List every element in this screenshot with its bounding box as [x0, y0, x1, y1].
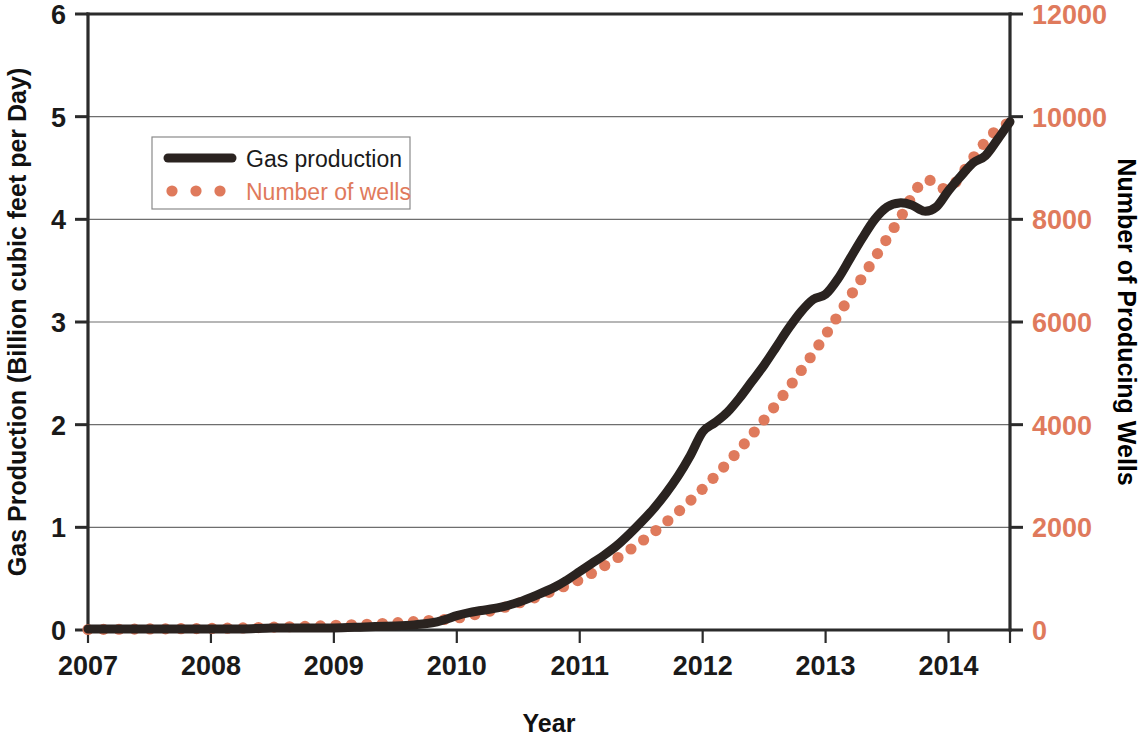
number-of-wells-dot	[796, 365, 807, 376]
x-axis-tick-label: 2008	[181, 651, 241, 681]
number-of-wells-dot	[662, 515, 673, 526]
number-of-wells-dot	[805, 352, 816, 363]
left-axis-tick-label: 0	[51, 616, 66, 646]
right-axis-tick-label: 4000	[1032, 411, 1092, 441]
right-axis-ticks	[1010, 14, 1023, 630]
x-axis-title: Year	[523, 709, 576, 737]
right-axis-tick-label: 2000	[1032, 513, 1092, 543]
x-axis-tick-label: 2011	[550, 651, 609, 681]
number-of-wells-dot	[739, 438, 750, 449]
number-of-wells-dot	[777, 390, 788, 401]
chart-container: 0123456 020004000600080001000012000 2007…	[0, 0, 1143, 746]
y-axis-title: Gas Production (Billion cubic feet per D…	[3, 68, 31, 576]
x-axis-tick-label: 2012	[673, 651, 733, 681]
number-of-wells-dot	[830, 313, 841, 324]
right-axis-tick-label: 0	[1032, 616, 1047, 646]
number-of-wells-dot	[625, 543, 636, 554]
number-of-wells-dot	[924, 175, 935, 186]
legend-dot	[166, 185, 177, 196]
right-axis-tick-label: 8000	[1032, 205, 1092, 235]
number-of-wells-dot	[813, 339, 824, 350]
left-axis-tick-labels: 0123456	[51, 0, 66, 646]
number-of-wells-dot	[897, 209, 908, 220]
left-axis-tick-label: 5	[51, 103, 66, 133]
left-axis-tick-label: 4	[51, 205, 66, 235]
x-axis-tick-label: 2013	[796, 651, 856, 681]
number-of-wells-dot	[912, 182, 923, 193]
number-of-wells-dot	[638, 534, 649, 545]
x-axis-title-text: Year	[523, 709, 576, 737]
number-of-wells-dot	[718, 461, 729, 472]
x-axis-tick-label: 2009	[304, 651, 364, 681]
legend-marker-number-of-wells	[166, 185, 225, 196]
number-of-wells-dot	[839, 300, 850, 311]
number-of-wells-dot	[674, 505, 685, 516]
legend-label-gas-production: Gas production	[246, 146, 402, 172]
y2-axis-title: Number of Producing Wells	[1113, 158, 1141, 485]
number-of-wells-dot	[728, 450, 739, 461]
x-axis-tick-label: 2010	[427, 651, 487, 681]
number-of-wells-dot	[847, 287, 858, 298]
left-axis-tick-label: 1	[51, 513, 66, 543]
y2-axis-title-text: Number of Producing Wells	[1113, 158, 1141, 485]
number-of-wells-dot	[880, 235, 891, 246]
x-axis-tick-labels: 20072008200920102011201220132014	[58, 651, 979, 681]
number-of-wells-dot	[822, 326, 833, 337]
right-axis-tick-label: 10000	[1032, 103, 1107, 133]
x-axis-tick-label: 2014	[918, 651, 978, 681]
number-of-wells-dot	[749, 426, 760, 437]
number-of-wells-dot	[685, 495, 696, 506]
x-axis-tick-label: 2007	[58, 651, 118, 681]
legend-label-number-of-wells: Number of wells	[246, 179, 411, 205]
left-axis-tick-label: 6	[51, 0, 66, 30]
number-of-wells-dot	[612, 552, 623, 563]
right-axis-tick-labels: 020004000600080001000012000	[1032, 0, 1107, 646]
right-axis-tick-label: 6000	[1032, 308, 1092, 338]
number-of-wells-dot	[768, 402, 779, 413]
legend-dot	[190, 185, 201, 196]
number-of-wells-dot	[889, 222, 900, 233]
number-of-wells-dot	[697, 484, 708, 495]
number-of-wells-dot	[855, 274, 866, 285]
right-axis-tick-label: 12000	[1032, 0, 1107, 30]
left-axis-tick-label: 3	[51, 308, 66, 338]
y-axis-title-text: Gas Production (Billion cubic feet per D…	[3, 68, 31, 576]
left-axis-tick-label: 2	[51, 411, 66, 441]
number-of-wells-dot	[707, 473, 718, 484]
chart-svg: 0123456 020004000600080001000012000 2007…	[0, 0, 1143, 746]
number-of-wells-dot	[758, 414, 769, 425]
legend-dot	[214, 185, 225, 196]
number-of-wells-dot	[650, 525, 661, 536]
chart-legend: Gas production Number of wells	[152, 137, 411, 209]
number-of-wells-dot	[864, 261, 875, 272]
left-axis-ticks	[75, 14, 88, 630]
number-of-wells-dot	[872, 248, 883, 259]
number-of-wells-dot	[787, 377, 798, 388]
